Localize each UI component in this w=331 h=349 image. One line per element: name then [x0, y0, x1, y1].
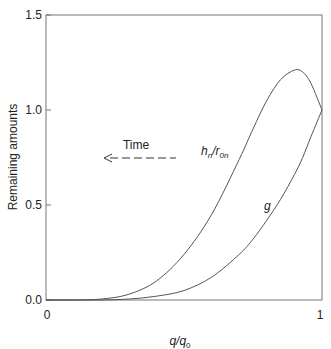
curve-g	[46, 110, 322, 300]
y-tick-1.0: 1.0	[25, 103, 42, 117]
chart: 1.5 1.0 0.5 0.0 Remaining amounts 0 1 q/…	[0, 0, 331, 349]
x-tick-0: 0	[44, 308, 51, 322]
x-tick-1: 1	[317, 308, 324, 322]
y-tick-0.0: 0.0	[25, 293, 42, 307]
x-axis: 0 1 q/q0	[44, 308, 324, 349]
time-label: Time	[123, 138, 150, 152]
plot-frame	[46, 15, 322, 300]
y-axis-label: Remaining amounts	[6, 104, 20, 211]
label-h-over-r: hn/r0n	[201, 144, 229, 160]
curve-h-over-r	[46, 70, 322, 301]
x-axis-label: q/q0	[169, 334, 191, 349]
y-axis: 1.5 1.0 0.5 0.0 Remaining amounts	[6, 8, 51, 307]
y-tick-1.5: 1.5	[25, 8, 42, 22]
time-arrow-icon	[104, 154, 176, 162]
y-tick-0.5: 0.5	[25, 198, 42, 212]
label-g: g	[264, 199, 271, 213]
